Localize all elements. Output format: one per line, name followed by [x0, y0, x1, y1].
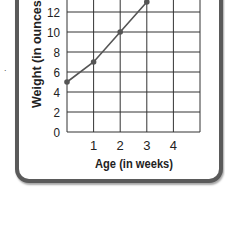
y-axis-label: Weight (in ounces) — [29, 0, 44, 108]
y-tick-label: 4 — [53, 85, 60, 100]
y-tick-label: 8 — [53, 45, 60, 60]
line-chart: 0246810121234Age (in weeks)Weight (in ou… — [0, 0, 225, 233]
y-tick-label: 6 — [53, 65, 60, 80]
data-point — [91, 59, 97, 65]
data-line — [67, 2, 147, 82]
data-point — [117, 29, 123, 35]
x-tick-label: 4 — [170, 138, 177, 153]
x-tick-label: 1 — [90, 138, 97, 153]
x-tick-label: 2 — [117, 138, 124, 153]
y-tick-label: 12 — [47, 5, 60, 20]
y-tick-label: 0 — [53, 125, 60, 140]
x-tick-label: 3 — [143, 138, 150, 153]
y-tick-label: 2 — [53, 105, 60, 120]
data-point — [64, 79, 70, 85]
y-tick-label: 10 — [47, 25, 60, 40]
x-axis-label: Age (in weeks) — [95, 156, 173, 171]
